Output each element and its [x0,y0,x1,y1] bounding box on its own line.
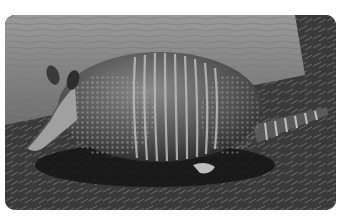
armadillo-photo [5,15,336,210]
armadillo-illustration [5,15,336,210]
